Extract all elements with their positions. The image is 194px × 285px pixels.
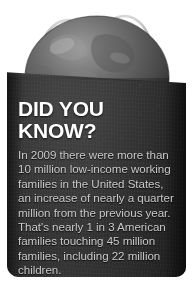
callout-headline: DID YOU KNOW? bbox=[18, 98, 176, 142]
callout-body-line: In 2009 there were more than bbox=[18, 148, 176, 162]
callout-content: DID YOU KNOW? In 2009 there were more th… bbox=[18, 98, 176, 277]
callout-body-line: children. bbox=[18, 263, 176, 277]
shopping-bag-front: DID YOU KNOW? In 2009 there were more th… bbox=[7, 66, 186, 277]
callout-body-line: 10 million low-income working bbox=[18, 162, 176, 176]
callout-body: In 2009 there were more than 10 million … bbox=[18, 148, 176, 277]
callout-body-line: million from the previous year. bbox=[18, 206, 176, 220]
callout-body-line: families touching 45 million bbox=[18, 234, 176, 248]
callout-body-line: That's nearly 1 in 3 American bbox=[18, 220, 176, 234]
callout-body-line: an increase of nearly a quarter bbox=[18, 191, 176, 205]
callout-body-line: families in the United States, bbox=[18, 177, 176, 191]
did-you-know-infographic: DID YOU KNOW? In 2009 there were more th… bbox=[0, 0, 194, 285]
callout-body-line: families, including 22 million bbox=[18, 249, 176, 263]
